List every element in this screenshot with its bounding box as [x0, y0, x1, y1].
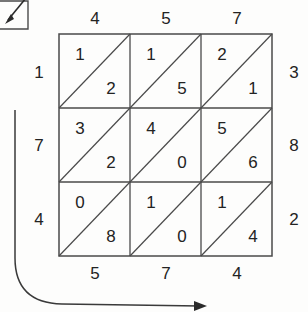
left-label-3: 4 [27, 211, 51, 228]
cell-r2c1-upper: 3 [70, 120, 90, 137]
cell-r2c3-upper: 5 [212, 120, 232, 137]
cell-r1c3-upper: 2 [212, 46, 232, 63]
cell-r1c2-upper: 1 [141, 46, 161, 63]
top-label-2: 5 [154, 10, 178, 27]
cell-r2c2-upper: 4 [141, 120, 161, 137]
cell-r3c3-upper: 1 [212, 194, 232, 211]
lattice-figure: 4 5 7 5 7 4 1 7 4 3 8 2 1 2 1 5 2 1 3 2 … [0, 0, 308, 312]
left-label-2: 7 [27, 137, 51, 154]
cell-r3c2-upper: 1 [141, 194, 161, 211]
cell-r3c2-lower: 0 [172, 228, 192, 245]
cell-r1c3-lower: 1 [243, 80, 263, 97]
cell-r3c3-lower: 4 [243, 228, 263, 245]
cell-r2c3-lower: 6 [243, 154, 263, 171]
left-label-1: 1 [27, 64, 51, 81]
top-label-1: 4 [83, 10, 107, 27]
bottom-label-2: 7 [154, 265, 178, 282]
cell-r3c1-upper: 0 [70, 194, 90, 211]
cell-r1c2-lower: 5 [172, 80, 192, 97]
cell-r1c1-lower: 2 [101, 80, 121, 97]
corner-box-outline [0, 1, 28, 29]
sweep-arrow-head [194, 301, 207, 311]
bottom-label-3: 4 [225, 265, 249, 282]
cell-r1c1-upper: 1 [70, 46, 90, 63]
right-label-1: 3 [282, 64, 306, 81]
cell-r3c1-lower: 8 [101, 228, 121, 245]
cell-r2c2-lower: 0 [172, 154, 192, 171]
top-label-3: 7 [225, 10, 249, 27]
cell-r2c1-lower: 2 [101, 154, 121, 171]
diagonal-arrow-box [0, 0, 28, 29]
bottom-label-1: 5 [83, 265, 107, 282]
right-label-3: 2 [282, 211, 306, 228]
cell-diagonals [59, 34, 272, 256]
right-label-2: 8 [282, 137, 306, 154]
